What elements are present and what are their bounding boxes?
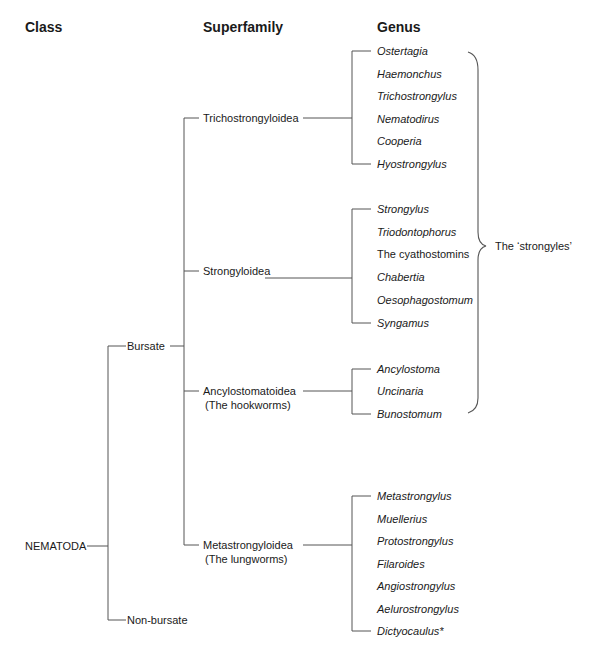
superfamily-ancylostomatoidea-note: (The hookworms) (205, 399, 291, 412)
superfamily-trichostrongyloidea: Trichostrongyloidea (203, 112, 299, 125)
genus-item: Nematodirus (377, 113, 439, 126)
genus-item: Uncinaria (377, 385, 423, 398)
genus-item: Hyostrongylus (377, 158, 447, 171)
genus-item: Muellerius (377, 513, 427, 526)
genus-item: Metastrongylus (377, 490, 452, 503)
tree-connectors (0, 0, 594, 654)
superfamily-metastrongyloidea: Metastrongyloidea (203, 539, 293, 552)
class-non-bursate: Non-bursate (127, 614, 188, 627)
genus-item: The cyathostomins (377, 248, 469, 261)
superfamily-ancylostomatoidea: Ancylostomatoidea (203, 385, 296, 398)
genus-item: Filaroides (377, 558, 425, 571)
genus-item: Oesophagostomum (377, 294, 473, 307)
genus-item: Haemonchus (377, 68, 442, 81)
genus-item: Triodontophorus (377, 226, 456, 239)
genus-item: Ancylostoma (377, 363, 440, 376)
genus-item: Bunostomum (377, 408, 442, 421)
genus-item: Angiostrongylus (377, 580, 455, 593)
genus-item: Chabertia (377, 271, 425, 284)
superfamily-strongyloidea: Strongyloidea (203, 265, 270, 278)
genus-item: Dictyocaulus* (377, 625, 444, 638)
genus-item: Trichostrongylus (377, 90, 457, 103)
genus-item: Syngamus (377, 317, 429, 330)
genus-item: Aelurostrongylus (377, 603, 459, 616)
genus-item: Ostertagia (377, 45, 428, 58)
superfamily-metastrongyloidea-note: (The lungworms) (205, 553, 288, 566)
class-root-nematoda: NEMATODA (25, 540, 86, 553)
genus-item: Cooperia (377, 135, 422, 148)
class-bursate: Bursate (127, 340, 165, 353)
genus-item: Protostrongylus (377, 535, 453, 548)
genus-item: Strongylus (377, 203, 429, 216)
strongyles-brace-label: The ‘strongyles’ (495, 240, 572, 253)
